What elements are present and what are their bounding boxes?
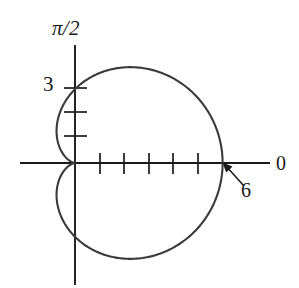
plot-canvas bbox=[0, 0, 299, 288]
max-radius-callout-label-6: 6 bbox=[241, 180, 251, 200]
axes-group bbox=[20, 45, 270, 285]
horizontal-axis-label: 0 bbox=[276, 153, 286, 173]
radius-tick-label-3: 3 bbox=[43, 74, 54, 95]
polar-plot-figure: π/2 3 6 0 bbox=[0, 0, 299, 288]
vertical-axis-label: π/2 bbox=[52, 18, 80, 39]
